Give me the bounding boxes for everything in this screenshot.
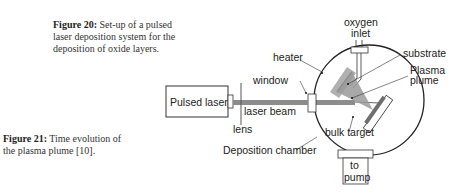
window [308,94,316,112]
pulsed-laser: Pulsed laser [166,86,233,117]
pump-outlet: to pump [338,150,373,184]
pump-label-line1: to [350,159,359,171]
oxygen-label-line2: inlet [351,27,370,39]
laser-beam-label: laser beam [244,105,296,117]
heater-label: heater [273,51,303,63]
window-label: window [252,74,288,86]
pulsed-laser-label: Pulsed laser [170,96,228,108]
deposition-chamber-label: Deposition chamber [223,144,317,156]
lens-label: lens [233,123,252,135]
pump-label-line2: pump [344,171,370,183]
bulk-target-label: bulk target [325,126,374,138]
pld-setup-diagram: Pulsed laser to pump [0,0,461,193]
substrate-label: substrate [403,47,446,59]
plasma-label-line2: plume [410,74,439,86]
